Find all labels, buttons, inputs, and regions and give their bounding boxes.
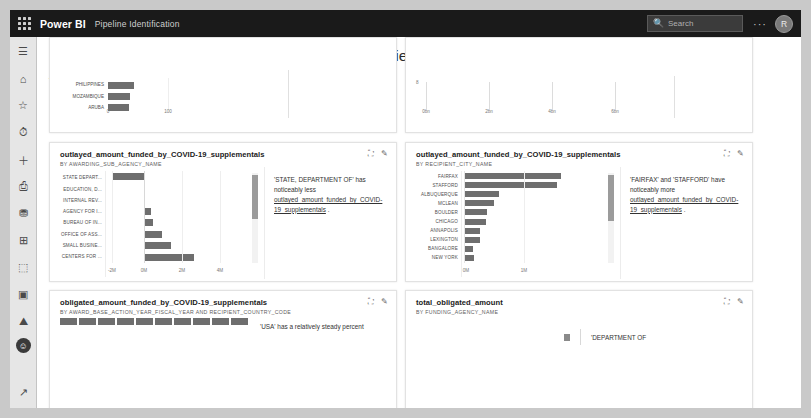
card-header: obligated_amount_funded_by_COVID-19_supp… xyxy=(50,291,396,315)
insight-card-awarding-sub-agency[interactable]: outlayed_amount_funded_by_COVID-19_suppl… xyxy=(49,142,397,282)
waffle-icon[interactable] xyxy=(18,17,31,30)
workspaces-icon[interactable]: ⛰ xyxy=(13,311,33,332)
scrollbar-thumb[interactable] xyxy=(608,175,614,221)
category-label: ANNAPOLIS xyxy=(410,229,458,234)
insight-card-grid: PHILIPPINES MOZAMBIQUE ARUBA 0 100 xyxy=(49,85,791,408)
learn-book-icon[interactable]: ▣ xyxy=(13,284,33,305)
bar xyxy=(155,318,172,325)
card-subtitle: BY AWARD_BASE_ACTION_YEAR_FISCAL_YEAR AN… xyxy=(60,309,388,315)
bar xyxy=(193,318,210,325)
pin-icon[interactable]: ✎ xyxy=(381,298,388,306)
apps-icon[interactable]: ⊞ xyxy=(13,230,33,251)
focus-mode-icon[interactable]: ⛶ xyxy=(724,298,730,306)
bar-row xyxy=(462,228,605,234)
stacked-bar-series[interactable]: 'USA' has a relatively steady percent xyxy=(50,315,396,330)
x-axis: 0 100 xyxy=(50,105,396,118)
focus-mode-icon[interactable]: ⛶ xyxy=(368,298,374,306)
bar xyxy=(564,334,570,341)
bar-row xyxy=(106,242,249,249)
insight-note-suffix: . xyxy=(326,206,330,213)
create-plus-icon[interactable]: ＋ xyxy=(13,149,33,170)
data-hub-icon[interactable]: ⛃ xyxy=(13,203,33,224)
category-label: INTERNAL REV... xyxy=(54,199,102,204)
app-header: Power BI Pipeline Identification 🔍 Searc… xyxy=(10,10,801,37)
insight-card-recipient-city[interactable]: outlayed_amount_funded_by_COVID-19_suppl… xyxy=(405,142,753,282)
clipped-chart-top-right: 8 0bn 2bn 4bn 6bn xyxy=(406,38,752,132)
search-placeholder: Search xyxy=(668,19,693,28)
zero-line xyxy=(144,171,145,263)
focus-mode-icon[interactable]: ⛶ xyxy=(724,150,730,158)
insight-card-obligated-amount[interactable]: obligated_amount_funded_by_COVID-19_supp… xyxy=(49,290,397,408)
avatar[interactable]: R xyxy=(775,15,793,33)
bar xyxy=(231,318,248,325)
insight-note: 'FAIRFAX' and 'STAFFORD' have noticeably… xyxy=(630,175,744,215)
category-label: CENTERS FOR ... xyxy=(54,255,102,260)
insight-note-suffix: . xyxy=(682,206,686,213)
category-label: MCLEAN xyxy=(410,202,458,207)
chart-preview[interactable]: 'DEPARTMENT OF xyxy=(406,315,752,345)
horizontal-bar-chart: FAIRFAX STAFFORD ALBUQUERQUE MCLEAN BOUL… xyxy=(410,171,616,277)
more-options-button[interactable]: ··· xyxy=(753,18,767,30)
bar xyxy=(464,255,474,261)
bar-row xyxy=(106,208,249,215)
card-subtitle: BY FUNDING_AGENCY_NAME xyxy=(416,309,744,315)
card-title: obligated_amount_funded_by_COVID-19_supp… xyxy=(60,298,388,307)
search-input[interactable]: 🔍 Search xyxy=(647,15,743,32)
insight-note-prefix: 'FAIRFAX' and 'STAFFORD' have noticeably… xyxy=(630,176,725,193)
browse-icon[interactable]: ⎙ xyxy=(13,176,33,197)
pin-icon[interactable]: ✎ xyxy=(737,298,744,306)
horizontal-bar-chart: STATE DEPART... EDUCATION, D... INTERNAL… xyxy=(54,171,260,277)
category-label: AGENCY FOR I... xyxy=(54,210,102,215)
category-axis: FAIRFAX STAFFORD ALBUQUERQUE MCLEAN BOUL… xyxy=(410,171,462,277)
bar xyxy=(464,219,486,225)
document-title[interactable]: Pipeline Identification xyxy=(95,19,180,29)
bar xyxy=(144,254,194,261)
brand-label[interactable]: Power BI xyxy=(40,18,86,30)
x-tick-label: 1M xyxy=(521,268,527,273)
bar-row xyxy=(462,237,605,243)
bar-series xyxy=(462,171,605,263)
pin-icon[interactable]: ✎ xyxy=(381,150,388,158)
x-tick-label: 0bn xyxy=(422,109,430,114)
expand-arrow-icon[interactable]: ↗ xyxy=(13,382,33,403)
card-body: FAIRFAX STAFFORD ALBUQUERQUE MCLEAN BOUL… xyxy=(406,167,752,279)
scrollbar-thumb[interactable] xyxy=(252,175,258,219)
bar xyxy=(108,93,130,100)
bar-row xyxy=(462,209,605,215)
bar-chart-awarding-sub-agency[interactable]: STATE DEPART... EDUCATION, D... INTERNAL… xyxy=(50,167,264,279)
x-axis: 0M 1M xyxy=(462,264,605,277)
bar xyxy=(212,318,229,325)
card-header: outlayed_amount_funded_by_COVID-19_suppl… xyxy=(50,143,396,167)
bar xyxy=(464,228,480,234)
pin-icon[interactable]: ✎ xyxy=(737,150,744,158)
bar-series xyxy=(106,171,249,263)
favorites-star-icon[interactable]: ☆ xyxy=(13,95,33,116)
x-tick-label: 6bn xyxy=(611,109,619,114)
bar xyxy=(108,82,134,89)
focus-mode-icon[interactable]: ⛶ xyxy=(368,150,374,158)
card-header: total_obligated_amount BY FUNDING_AGENCY… xyxy=(406,291,752,315)
hamburger-icon[interactable]: ☰ xyxy=(13,41,33,62)
recent-clock-icon[interactable]: ⏱ xyxy=(13,122,33,143)
bar-row xyxy=(462,173,605,179)
insight-note: 'USA' has a relatively steady percent xyxy=(250,318,364,330)
insight-card-total-obligated[interactable]: total_obligated_amount BY FUNDING_AGENCY… xyxy=(405,290,753,408)
x-tick-label: 100 xyxy=(164,109,172,114)
insight-card-top-right[interactable]: 8 0bn 2bn 4bn 6bn xyxy=(405,37,753,133)
bar-row xyxy=(462,255,605,261)
chart-scrollbar[interactable] xyxy=(252,173,258,263)
bar-chart-recipient-city[interactable]: FAIRFAX STAFFORD ALBUQUERQUE MCLEAN BOUL… xyxy=(406,167,620,279)
insight-note: 'DEPARTMENT OF xyxy=(591,334,646,341)
metrics-icon[interactable]: ⬚ xyxy=(13,257,33,278)
bar xyxy=(464,173,561,179)
insight-card-top-left[interactable]: PHILIPPINES MOZAMBIQUE ARUBA 0 100 xyxy=(49,37,397,133)
bar-row xyxy=(462,219,605,225)
profile-avatar-icon[interactable]: ☺ xyxy=(16,338,31,353)
bar-row xyxy=(462,200,605,206)
bar xyxy=(136,318,153,325)
bar-row xyxy=(106,219,249,226)
insight-note-pane: 'FAIRFAX' and 'STAFFORD' have noticeably… xyxy=(620,167,752,279)
app-window: Power BI Pipeline Identification 🔍 Searc… xyxy=(0,0,811,418)
home-icon[interactable]: ⌂ xyxy=(13,68,33,89)
chart-scrollbar[interactable] xyxy=(608,173,614,263)
